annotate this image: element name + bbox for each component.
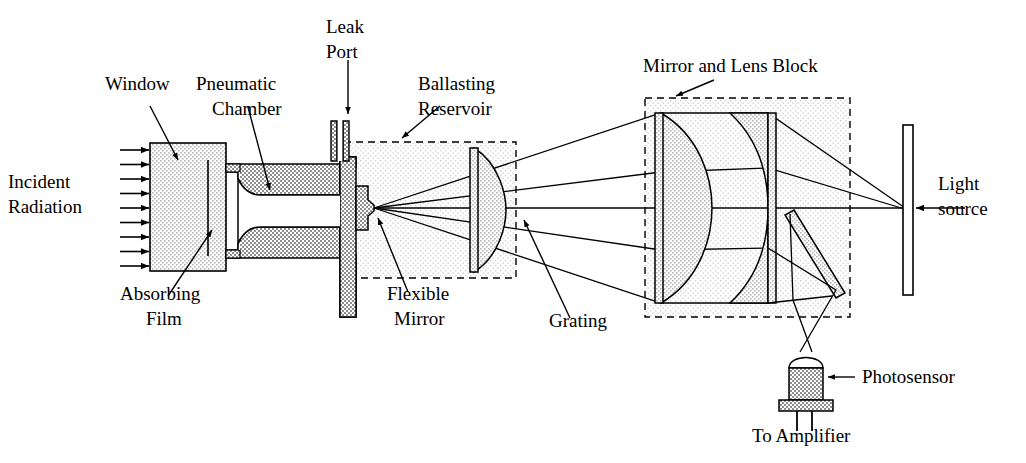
label-flexible-mirror: Flexible Mirror [387,283,454,329]
label-ballasting-reservoir: Ballasting Reservoir [418,73,500,119]
label-incident-radiation: Incident Radiation [8,171,82,217]
label-absorbing-film: Absorbing Film [120,283,205,329]
incident-radiation-arrows [120,150,149,266]
label-grating: Grating [549,310,608,331]
label-leak-port: Leak Port [326,16,369,62]
photosensor [779,358,833,432]
light-source [903,125,913,295]
window-block [150,143,226,271]
diagram-canvas: Incident Radiation Window Pneumatic Cham… [0,0,1026,463]
lens-left [655,113,663,303]
detector-schematic: Incident Radiation Window Pneumatic Cham… [0,0,1026,463]
label-light-source: Light source [938,173,988,219]
leader-mirror-lens-block [676,80,714,96]
leak-port [331,121,349,161]
label-pneumatic-chamber: Pneumatic Chamber [196,73,282,119]
label-window: Window [105,73,170,94]
label-to-amplifier: To Amplifier [752,425,851,446]
leader-grating [524,220,570,318]
pneumatic-chamber [226,157,356,317]
label-mirror-and-lens-block: Mirror and Lens Block [643,55,818,76]
label-photosensor: Photosensor [862,366,956,387]
